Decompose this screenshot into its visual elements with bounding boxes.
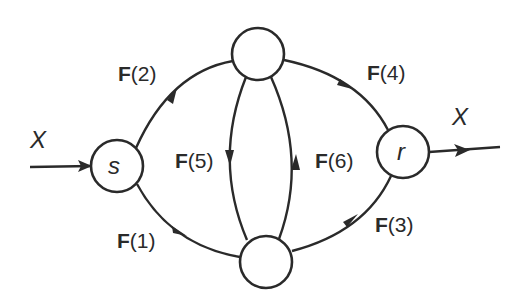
edge-label-F1: F(1)	[117, 230, 156, 251]
edge-label-F5: F(5)	[175, 150, 214, 171]
edge-F5	[230, 77, 247, 240]
flow-network-diagram: s r X X F(2) F(1) F(4) F(3) F(5) F(6)	[0, 0, 516, 305]
edge-F1-arrowhead-icon	[172, 226, 187, 236]
edge-F6	[271, 77, 292, 239]
edge-F4-arrowhead-icon	[337, 79, 352, 89]
edge-label-F6: F(6)	[315, 150, 354, 171]
edge-label-F2: F(2)	[118, 63, 157, 84]
node-top	[232, 28, 284, 80]
output-label: X	[452, 105, 468, 129]
edge-F5-arrowhead-icon	[225, 150, 234, 166]
diagram-graphics	[0, 0, 516, 305]
edge-label-F4: F(4)	[367, 62, 406, 83]
node-s-label: s	[108, 154, 120, 178]
input-label: X	[30, 128, 46, 152]
node-bottom	[240, 236, 292, 288]
node-r-label: r	[397, 140, 405, 164]
edge-label-F3: F(3)	[375, 214, 414, 235]
